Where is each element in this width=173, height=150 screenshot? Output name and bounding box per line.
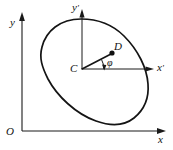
point-c-label: C <box>70 63 77 74</box>
local-y-axis-arrowhead <box>79 9 84 18</box>
local-x-axis-arrowhead <box>146 66 155 71</box>
global-y-axis-arrowhead <box>19 12 25 21</box>
local-y-axis-label: y′ <box>72 2 79 13</box>
global-x-axis-label: x <box>158 134 163 145</box>
global-origin-label: O <box>6 126 14 137</box>
figure-drawing <box>0 0 173 150</box>
local-x-axis-prime: ′ <box>162 63 164 73</box>
angle-phi-arrowhead <box>102 65 106 71</box>
angle-phi-label: φ <box>107 58 113 68</box>
local-y-axis-prime: ′ <box>77 3 79 13</box>
body-outline-path <box>41 19 148 124</box>
figure-container: y x O y′ x′ C D φ <box>0 0 173 150</box>
global-y-axis-label: y <box>10 17 15 28</box>
local-x-axis-label: x′ <box>157 62 164 73</box>
point-d-label: D <box>114 41 122 52</box>
